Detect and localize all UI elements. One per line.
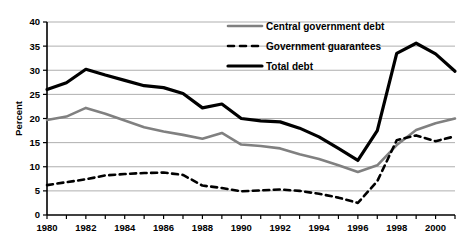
chart-container: 0510152025303540198019821984198619881990… bbox=[0, 0, 468, 249]
y-tick-label: 0 bbox=[35, 209, 40, 220]
y-tick-label: 5 bbox=[35, 185, 41, 196]
line-chart: 0510152025303540198019821984198619881990… bbox=[0, 0, 468, 249]
x-tick-label: 1980 bbox=[36, 222, 57, 233]
x-tick-label: 1984 bbox=[114, 222, 136, 233]
legend-label-0: Central government debt bbox=[266, 21, 385, 32]
x-tick-label: 1990 bbox=[231, 222, 252, 233]
y-tick-label: 25 bbox=[29, 89, 40, 100]
x-tick-label: 1996 bbox=[347, 222, 368, 233]
x-tick-label: 2000 bbox=[425, 222, 446, 233]
y-tick-label: 40 bbox=[29, 16, 40, 27]
x-tick-label: 1998 bbox=[386, 222, 407, 233]
y-tick-label: 10 bbox=[29, 161, 40, 172]
y-tick-label: 15 bbox=[29, 137, 40, 148]
x-tick-label: 1986 bbox=[153, 222, 174, 233]
legend-label-1: Government guarantees bbox=[266, 41, 381, 52]
y-tick-label: 35 bbox=[29, 41, 40, 52]
series-line-central-government-debt bbox=[47, 108, 455, 172]
x-tick-label: 1988 bbox=[192, 222, 213, 233]
legend-label-2: Total debt bbox=[266, 61, 314, 72]
y-axis-title: Percent bbox=[13, 100, 24, 136]
x-tick-label: 1994 bbox=[308, 222, 330, 233]
x-tick-label: 1982 bbox=[75, 222, 96, 233]
y-tick-label: 30 bbox=[29, 65, 40, 76]
x-tick-label: 1992 bbox=[270, 222, 291, 233]
y-tick-label: 20 bbox=[29, 113, 40, 124]
gridlines bbox=[47, 22, 455, 191]
